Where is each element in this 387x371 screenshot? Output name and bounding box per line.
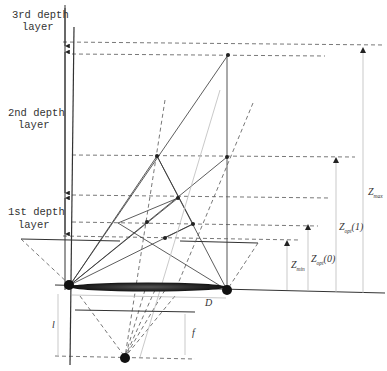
d-dimension xyxy=(72,295,226,298)
layer-1-label-2: layer xyxy=(18,219,50,231)
lens xyxy=(70,283,226,292)
rays xyxy=(70,55,228,290)
depth-lines xyxy=(55,42,385,359)
display-plane-right xyxy=(180,241,258,243)
z-min-label: Zmin xyxy=(291,259,305,272)
layer-2-label-2: layer xyxy=(18,119,50,131)
depth-layer-diagram: 3rd depth layer 2nd depth layer 1st dept… xyxy=(0,0,387,371)
d-label: D xyxy=(204,297,213,308)
display-plane xyxy=(21,239,120,241)
layer-3-label-2: layer xyxy=(22,21,54,33)
camera-point xyxy=(120,353,130,363)
z-opt0-label: Zopt(0) xyxy=(311,253,336,266)
lens-left-point xyxy=(64,280,74,290)
main-vertical-axis xyxy=(70,27,74,365)
z-opt1-label: Zopt(1) xyxy=(339,221,364,234)
f-label: f xyxy=(192,327,196,338)
intersection-points xyxy=(145,53,230,240)
z-max-label: Zmax xyxy=(368,186,383,199)
layer-1-label-1: 1st depth xyxy=(8,206,65,218)
layer-2-label-1: 2nd depth xyxy=(8,107,65,119)
layer-3-label-1: 3rd depth xyxy=(12,9,69,21)
l-label: l xyxy=(52,319,55,330)
lower-plane xyxy=(75,310,195,312)
lens-right-point xyxy=(222,285,232,295)
